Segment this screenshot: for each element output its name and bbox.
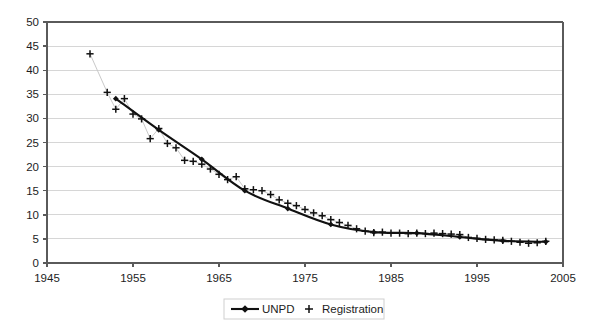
chart-container: 05101520253035404550 1945195519651975198… <box>0 0 600 329</box>
x-tick-label: 1985 <box>378 272 404 284</box>
y-tick-label: 20 <box>26 161 39 173</box>
y-tick-label: 15 <box>26 185 39 197</box>
x-tick-label: 1955 <box>120 272 146 284</box>
infant-mortality-line-chart: 05101520253035404550 1945195519651975198… <box>0 0 600 329</box>
y-tick-label: 35 <box>26 88 39 100</box>
y-tick-label: 45 <box>26 40 39 52</box>
y-tick-label: 10 <box>26 209 39 221</box>
chart-legend: UNPD Registration <box>224 299 384 319</box>
x-tick-label: 1945 <box>34 272 60 284</box>
y-tick-label: 50 <box>26 16 39 28</box>
y-tick-label: 30 <box>26 112 39 124</box>
x-tick-label: 1975 <box>292 272 318 284</box>
y-tick-label: 5 <box>33 233 39 245</box>
legend-label-unpd: UNPD <box>262 303 295 315</box>
y-tick-label: 40 <box>26 64 39 76</box>
x-tick-label: 1965 <box>206 272 232 284</box>
x-tick-label: 1995 <box>464 272 490 284</box>
y-tick-label: 0 <box>33 257 39 269</box>
legend-label-registration: Registration <box>322 303 383 315</box>
x-tick-label: 2005 <box>550 272 576 284</box>
y-tick-label: 25 <box>26 137 39 149</box>
